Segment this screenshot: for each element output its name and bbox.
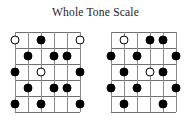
scale-note-marker: [63, 84, 72, 93]
fret-line: [111, 112, 176, 113]
string-line: [176, 32, 177, 112]
root-note-marker: [76, 36, 85, 45]
scale-note-marker: [120, 68, 129, 77]
string-line: [67, 32, 68, 112]
fretboard-diagrams-container: [0, 32, 191, 122]
root-note-marker: [146, 68, 155, 77]
scale-note-marker: [11, 68, 20, 77]
fret-line: [15, 80, 80, 81]
scale-note-marker: [76, 68, 85, 77]
string-line: [111, 32, 112, 112]
scale-note-marker: [24, 84, 33, 93]
scale-note-marker: [146, 36, 155, 45]
scale-note-marker: [107, 84, 116, 93]
scale-note-marker: [11, 100, 20, 109]
string-line: [137, 32, 138, 112]
scale-note-marker: [172, 84, 181, 93]
scale-note-marker: [159, 36, 168, 45]
fretboard-diagram-1: [15, 32, 80, 112]
fret-line: [111, 32, 176, 33]
scale-diagram-page: Whole Tone Scale: [0, 0, 191, 129]
fret-line: [111, 80, 176, 81]
page-title: Whole Tone Scale: [0, 6, 191, 18]
scale-note-marker: [172, 52, 181, 61]
fret-line: [15, 64, 80, 65]
fret-line: [15, 96, 80, 97]
scale-note-marker: [159, 100, 168, 109]
scale-note-marker: [50, 52, 59, 61]
fret-line: [15, 32, 80, 33]
scale-note-marker: [120, 100, 129, 109]
scale-note-marker: [63, 52, 72, 61]
root-note-marker: [11, 36, 20, 45]
string-line: [54, 32, 55, 112]
fret-line: [15, 48, 80, 49]
scale-note-marker: [50, 84, 59, 93]
fretboard-grid: [15, 32, 80, 112]
scale-note-marker: [24, 52, 33, 61]
scale-note-marker: [133, 52, 142, 61]
scale-note-marker: [159, 68, 168, 77]
fretboard-grid: [111, 32, 176, 112]
root-note-marker: [37, 68, 46, 77]
root-note-marker: [120, 36, 129, 45]
scale-note-marker: [133, 84, 142, 93]
scale-note-marker: [107, 52, 116, 61]
fret-line: [111, 48, 176, 49]
scale-note-marker: [37, 100, 46, 109]
fret-line: [111, 96, 176, 97]
fretboard-diagram-2: [111, 32, 176, 112]
fret-line: [15, 112, 80, 113]
string-line: [28, 32, 29, 112]
scale-note-marker: [76, 100, 85, 109]
scale-note-marker: [37, 36, 46, 45]
fret-line: [111, 64, 176, 65]
